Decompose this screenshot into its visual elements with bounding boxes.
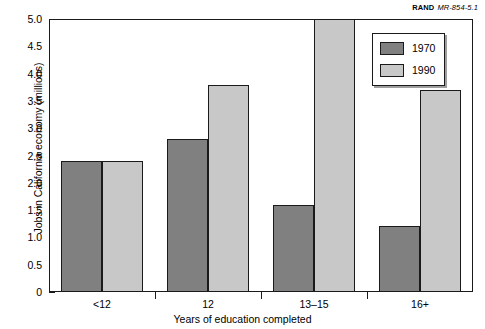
bar-1970-<12	[61, 161, 102, 292]
x-tick-mark	[367, 292, 368, 299]
legend-item-1970: 1970	[380, 40, 435, 57]
y-tick-label: 4.0	[0, 68, 42, 80]
x-tick-mark	[261, 292, 262, 299]
x-category-label: 12	[202, 298, 214, 310]
bar-1990-<12	[102, 161, 143, 292]
credit-organization: RAND	[412, 3, 434, 12]
y-tick-label: 5.0	[0, 13, 42, 25]
x-category-label: <12	[93, 298, 111, 310]
x-category-label: 16+	[411, 298, 429, 310]
x-category-label: 13–15	[299, 298, 328, 310]
legend-item-1990: 1990	[380, 62, 435, 79]
y-tick-label: 3.5	[0, 95, 42, 107]
bar-1970-13–15	[273, 205, 314, 292]
credit-report-id: MR-854-5.1	[437, 3, 478, 12]
y-tick-label: 2.5	[0, 150, 42, 162]
y-tick-label: 4.5	[0, 40, 42, 52]
bar-1990-16+	[420, 90, 461, 292]
legend-swatch-1970	[380, 42, 404, 55]
y-tick-mark	[49, 292, 55, 293]
y-tick-label: 0.5	[0, 259, 42, 271]
bar-1990-12	[208, 85, 249, 292]
legend-label-1990: 1990	[412, 65, 435, 76]
y-tick-label: 1.0	[0, 231, 42, 243]
legend: 1970 1990	[372, 33, 445, 86]
legend-swatch-1990	[380, 64, 404, 77]
bar-1970-12	[167, 139, 208, 292]
y-tick-label: 2.0	[0, 177, 42, 189]
bar-1990-13–15	[314, 19, 355, 292]
y-tick-label: 3.0	[0, 122, 42, 134]
x-axis-title: Years of education completed	[0, 313, 485, 325]
source-credit: RANDMR-854-5.1	[412, 3, 478, 12]
x-tick-mark	[155, 292, 156, 299]
y-tick-label: 0	[0, 286, 42, 298]
bar-chart: RANDMR-854-5.1 Jobs in California econom…	[0, 0, 485, 329]
legend-label-1970: 1970	[412, 43, 435, 54]
bar-1970-16+	[379, 226, 420, 292]
y-tick-label: 1.5	[0, 204, 42, 216]
